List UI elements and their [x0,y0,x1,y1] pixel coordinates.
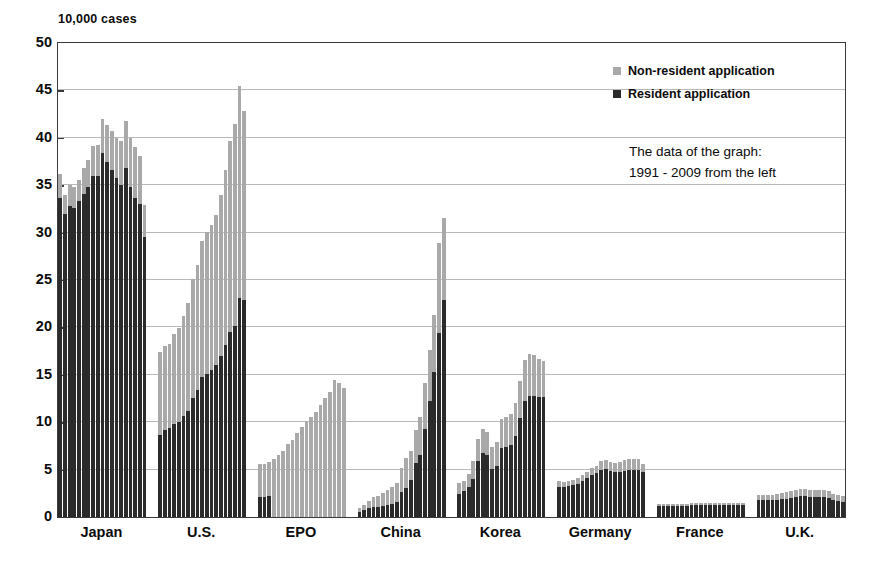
bar-segment-non-resident [671,504,675,506]
bar-segment-non-resident [210,225,214,370]
bar [685,504,689,517]
bar [708,503,712,517]
bar [822,490,826,517]
bar-segment-resident [708,505,712,517]
bar-segment-non-resident [657,504,661,506]
bar-segment-resident [761,500,765,517]
bar [490,447,494,517]
bar-segment-resident [500,448,504,517]
bar-segment-non-resident [309,417,313,517]
bar-segment-non-resident [138,156,142,204]
bar [557,481,561,517]
bar-segment-resident [177,422,181,517]
bar-segment-resident [82,194,86,517]
bar-segment-resident [632,470,636,517]
bar-segment-resident [233,326,237,517]
bar-segment-non-resident [827,491,831,498]
bar-segment-non-resident [761,495,765,500]
bar-group-japan [58,43,147,517]
bar-segment-resident [119,185,123,517]
bar [133,147,137,517]
bar [124,121,128,517]
bar-segment-resident [595,473,599,517]
bar [82,168,86,517]
bar-group-korea [457,43,546,517]
y-tick-label-15: 15 [12,367,52,382]
annotation-line-2: 1991 - 2009 from the left [629,163,776,184]
bar [418,417,422,517]
bar-segment-non-resident [272,459,276,517]
bar-segment-resident [432,372,436,517]
bar [813,490,817,517]
bar [581,475,585,517]
y-tick-label-50: 50 [12,35,52,50]
bar-segment-resident [91,176,95,517]
bar-segment-non-resident [490,447,494,469]
bar-segment-non-resident [409,451,413,480]
bar-segment-resident [590,475,594,517]
bar-segment-resident [258,497,262,517]
bar [500,419,504,517]
bar-segment-non-resident [323,398,327,517]
bar-segment-resident [400,492,404,517]
bar [471,461,475,517]
bar-segment-non-resident [514,403,518,436]
bar-segment-non-resident [599,461,603,470]
bar [404,458,408,517]
bar-segment-non-resident [822,490,826,497]
bar [528,354,532,517]
bar [105,125,109,517]
bar [263,464,267,517]
bar-segment-resident [58,198,62,517]
bar-segment-resident [775,500,779,517]
bar-segment-resident [713,505,717,517]
bar-segment-resident [736,505,740,517]
bar-segment-resident [490,469,494,517]
bar-segment-resident [537,397,541,517]
y-tick-label-10: 10 [12,414,52,429]
bar-segment-resident [172,424,176,517]
bar-segment-non-resident [722,503,726,505]
bar-segment-resident [267,496,271,517]
bar-segment-non-resident [82,168,86,194]
bar-segment-non-resident [817,490,821,497]
bar-segment-resident [637,470,641,517]
bar [414,430,418,517]
bar [286,444,290,517]
bar-segment-resident [205,374,209,517]
bar-segment-non-resident [680,504,684,506]
bar [129,138,133,517]
bar-segment-resident [732,505,736,517]
bar [191,279,195,517]
bar [91,146,95,517]
bar-segment-non-resident [495,442,499,466]
bar [400,468,404,517]
bar-segment-resident [96,176,100,517]
bar [741,503,745,517]
bar [200,241,204,517]
bar-segment-non-resident [362,505,366,511]
bar [177,328,181,517]
x-tick-label-france: France [676,524,724,540]
bar-segment-resident [442,300,446,517]
bar-segment-resident [395,502,399,517]
bar [713,503,717,517]
bar-segment-non-resident [219,195,223,356]
bar-segment-non-resident [557,481,561,487]
bar-segment-non-resident [542,361,546,397]
bar [242,111,246,517]
bar [272,459,276,517]
bar [196,265,200,517]
legend-swatch-icon [613,90,621,98]
bar-segment-non-resident [509,414,513,445]
bar-segment-resident [718,505,722,517]
bar-segment-non-resident [337,383,341,517]
bar [694,503,698,517]
bar-segment-non-resident [328,392,332,517]
bar-segment-resident [722,505,726,517]
bar-segment-non-resident [632,459,636,469]
bar-segment-non-resident [442,218,446,300]
bar-segment-resident [418,455,422,517]
bar-segment-non-resident [713,503,717,505]
bar-segment-resident [567,486,571,517]
